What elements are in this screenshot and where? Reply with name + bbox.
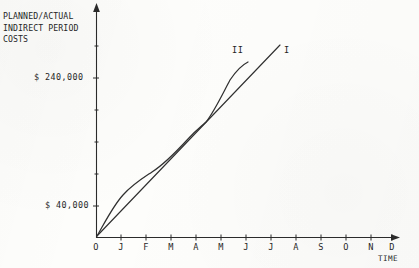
y-axis-arrowhead [93,3,100,12]
series-line-planned [97,45,280,236]
plot-area [0,0,419,268]
chart-figure: PLANNED/ACTUAL INDIRECT PERIOD COSTS $ 2… [0,0,419,268]
series-curve-actual [97,62,248,236]
